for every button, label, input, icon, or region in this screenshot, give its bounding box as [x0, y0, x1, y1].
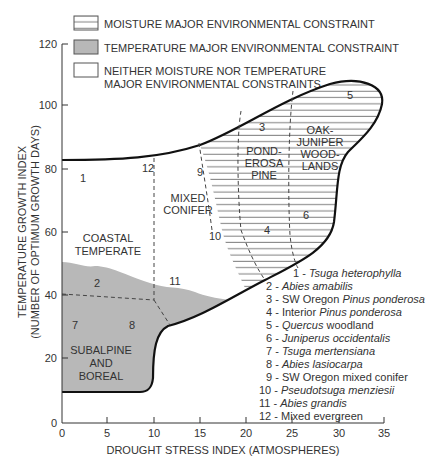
- oak-label-3: WOOD-: [300, 148, 339, 160]
- coastal-label-2: TEMPERATE: [75, 245, 141, 257]
- svg-text:12: 12: [142, 162, 154, 174]
- svg-text:1: 1: [80, 172, 86, 184]
- svg-text:6 - Juniperus occidentalis: 6 - Juniperus occidentalis: [266, 332, 391, 344]
- svg-text:5: 5: [347, 89, 353, 101]
- legend-moisture-swatch: [74, 16, 98, 30]
- svg-text:TEMPERATURE GROWTH INDEX: TEMPERATURE GROWTH INDEX: [16, 145, 28, 318]
- legend-temperature-label: TEMPERATURE MAJOR ENVIRONMENTAL CONSTRAI…: [104, 42, 399, 54]
- svg-text:3: 3: [259, 121, 265, 133]
- svg-text:3 - SW Oregon Pinus ponderosa: 3 - SW Oregon Pinus ponderosa: [266, 293, 425, 305]
- svg-text:10: 10: [148, 427, 160, 439]
- svg-text:9: 9: [197, 166, 203, 178]
- coastal-label-1: COASTAL: [83, 232, 134, 244]
- svg-text:1 - Tsuga heterophylla: 1 - Tsuga heterophylla: [293, 267, 401, 279]
- svg-text:25: 25: [286, 427, 298, 439]
- svg-text:7 - Tsuga mertensiana: 7 - Tsuga mertensiana: [266, 345, 375, 357]
- mixed-label-1: MIXED: [171, 192, 206, 204]
- legend-neither-swatch: [74, 63, 98, 77]
- svg-text:30: 30: [333, 427, 345, 439]
- subalpine-label-1: SUBALPINE: [70, 344, 132, 356]
- svg-text:10 - Pseudotsuga menziesii: 10 - Pseudotsuga menziesii: [259, 384, 395, 396]
- svg-text:4: 4: [264, 224, 270, 236]
- svg-text:35: 35: [378, 427, 390, 439]
- svg-text:60: 60: [45, 226, 57, 238]
- svg-text:11: 11: [169, 275, 180, 287]
- svg-text:4 - Interior Pinus ponderosa: 4 - Interior Pinus ponderosa: [266, 306, 402, 318]
- svg-text:2 - Abies amabilis: 2 - Abies amabilis: [266, 280, 353, 292]
- legend-neither-label-1: NEITHER MOISTURE NOR TEMPERATURE: [104, 65, 326, 77]
- svg-text:120: 120: [39, 38, 57, 50]
- legend-moisture-label: MOISTURE MAJOR ENVIRONMENTAL CONSTRAINT: [104, 18, 375, 30]
- species-key: 1 - Tsuga heterophylla 2 - Abies amabili…: [259, 267, 425, 422]
- svg-text:8 - Abies lasiocarpa: 8 - Abies lasiocarpa: [266, 358, 363, 370]
- svg-text:10: 10: [209, 230, 221, 242]
- svg-text:100: 100: [39, 99, 57, 111]
- svg-text:20: 20: [45, 352, 57, 364]
- ponderosa-label-1: POND-: [246, 145, 282, 157]
- legend: MOISTURE MAJOR ENVIRONMENTAL CONSTRAINT …: [74, 16, 399, 90]
- y-axis-title: TEMPERATURE GROWTH INDEX (NUMBER OF OPTI…: [16, 125, 41, 339]
- legend-neither-label-2: MAJOR ENVIRONMENTAL CONSTRAINTS: [104, 78, 321, 90]
- svg-text:15: 15: [194, 427, 206, 439]
- y-tick-labels: 0 20 40 60 80 100 120: [39, 38, 57, 429]
- svg-text:7: 7: [72, 319, 78, 331]
- subalpine-label-3: BOREAL: [79, 370, 124, 382]
- oak-label-4: LANDS: [302, 160, 339, 172]
- svg-text:0: 0: [59, 427, 65, 439]
- subalpine-label-2: AND: [89, 357, 112, 369]
- vegetation-zone-diagram: MOISTURE MAJOR ENVIRONMENTAL CONSTRAINT …: [0, 0, 430, 465]
- legend-temperature-swatch: [74, 40, 98, 54]
- svg-text:5: 5: [104, 427, 110, 439]
- svg-text:40: 40: [45, 289, 57, 301]
- oak-label-1: OAK-: [307, 124, 334, 136]
- svg-text:9 - SW Oregon mixed conifer: 9 - SW Oregon mixed conifer: [266, 371, 408, 383]
- svg-text:0: 0: [51, 417, 57, 429]
- ponderosa-label-3: PINE: [251, 169, 277, 181]
- svg-text:2: 2: [94, 277, 100, 289]
- svg-text:5 - Quercus woodland: 5 - Quercus woodland: [266, 319, 374, 331]
- x-axis-title: DROUGHT STRESS INDEX (ATMOSPHERES): [106, 444, 339, 456]
- moisture-constraint-region: [198, 70, 420, 300]
- svg-text:20: 20: [240, 427, 252, 439]
- svg-text:6: 6: [303, 209, 309, 221]
- svg-text:8: 8: [129, 319, 135, 331]
- svg-text:80: 80: [45, 163, 57, 175]
- mixed-label-2: CONIFER: [163, 204, 213, 216]
- oak-label-2: JUNIPER: [296, 136, 343, 148]
- svg-text:12 - Mixed evergreen: 12 - Mixed evergreen: [259, 410, 363, 422]
- x-tick-labels: 0 5 10 15 20 25 30 35: [59, 427, 390, 439]
- ponderosa-label-2: EROSA: [245, 157, 284, 169]
- svg-text:11 - Abies grandis: 11 - Abies grandis: [259, 397, 347, 409]
- svg-text:(NUMBER OF OPTIMUM GROWTH DAYS: (NUMBER OF OPTIMUM GROWTH DAYS): [29, 125, 41, 339]
